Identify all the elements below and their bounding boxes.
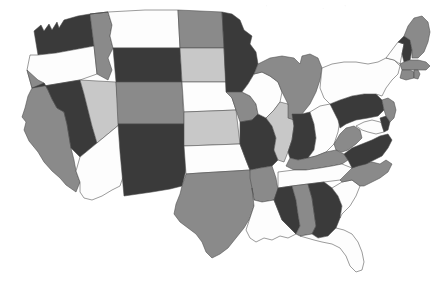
state-CT[interactable]: Connecticut <box>400 70 414 80</box>
state-SD[interactable]: South Dakota <box>180 48 226 82</box>
state-ND[interactable]: North Dakota <box>178 10 224 48</box>
map-states-layer: Washington Oregon California Nevada Idah… <box>22 10 430 272</box>
state-WY[interactable]: Wyoming <box>113 48 182 82</box>
state-TX[interactable]: Texas <box>174 170 256 258</box>
state-CO[interactable]: Colorado <box>116 82 184 124</box>
state-NM[interactable]: New Mexico <box>118 124 186 196</box>
state-RI[interactable]: Rhode Island <box>414 70 420 79</box>
state-AR[interactable]: Arkansas <box>250 166 278 202</box>
state-OK[interactable]: Oklahoma <box>184 144 250 174</box>
state-FL[interactable]: Florida <box>300 228 364 272</box>
us-choropleth-map-figure: Washington Oregon California Nevada Idah… <box>0 0 437 283</box>
state-KS[interactable]: Kansas <box>184 110 240 146</box>
us-map-svg: Washington Oregon California Nevada Idah… <box>0 0 437 283</box>
